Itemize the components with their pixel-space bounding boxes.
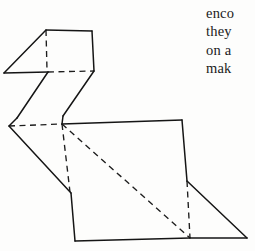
body-long-diagonal-crease-icon bbox=[62, 124, 190, 238]
crease-line-group bbox=[9, 30, 190, 238]
head-right-edge-icon bbox=[92, 31, 94, 71]
body-text-block: enco they on a mak bbox=[206, 4, 255, 77]
neck-back-edge-icon bbox=[63, 71, 94, 116]
neck-front-lower-icon bbox=[9, 118, 17, 126]
head-top-edge-icon bbox=[46, 30, 92, 31]
text-line-2: they bbox=[206, 22, 255, 40]
tail-vertical-crease-icon bbox=[187, 181, 190, 238]
body-vertical-crease-icon bbox=[62, 124, 70, 192]
body-right-edge-icon bbox=[182, 120, 187, 181]
tail-upper-edge-icon bbox=[187, 181, 247, 238]
text-line-4: mak bbox=[206, 59, 255, 77]
body-bottom-edge-icon bbox=[75, 238, 190, 241]
text-line-1: enco bbox=[206, 4, 255, 22]
figure-page: enco they on a mak bbox=[0, 0, 255, 251]
head-vertical-crease-icon bbox=[46, 30, 47, 70]
body-left-upper-icon bbox=[9, 126, 71, 193]
neck-front-edge-icon bbox=[17, 72, 48, 118]
beak-lower-edge-icon bbox=[4, 72, 48, 73]
head-bottom-crease-icon bbox=[48, 71, 94, 72]
back-top-edge-icon bbox=[62, 120, 182, 124]
body-left-lower-icon bbox=[71, 193, 75, 241]
neck-back-lower-icon bbox=[62, 116, 63, 124]
body-horizontal-crease-icon bbox=[9, 124, 62, 126]
text-line-3: on a bbox=[206, 41, 255, 59]
beak-upper-edge-icon bbox=[4, 30, 46, 73]
